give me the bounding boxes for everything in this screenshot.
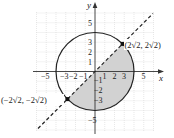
y-tick-label: 1 [88,58,92,67]
intersection-point-lower [65,97,69,101]
x-tick-label: 5 [142,72,146,81]
x-tick-label: −2 [69,72,78,81]
coordinate-diagram: x y −5 −3 −2 −1 1 2 3 5 5 3 2 1 −1 −2 −3… [0,0,174,138]
y-axis [93,2,98,134]
y-axis-label: y [86,0,91,10]
point-label-upper: (2√2, 2√2) [125,40,161,50]
y-tick-label: −5 [88,116,97,125]
y-tick-label: 5 [88,19,92,28]
y-tick-label: −1 [94,76,103,85]
x-tick-label: 1 [103,72,107,81]
x-tick-label: 3 [122,72,126,81]
y-tick-label: −3 [94,96,103,105]
y-tick-label: 2 [88,48,92,57]
x-axis-label: x [158,73,163,83]
x-tick-label: −5 [41,72,50,81]
x-tick-label: −1 [79,72,88,81]
y-tick-label: 3 [88,38,92,47]
x-tick-label: −3 [60,72,69,81]
dashed-line-y-equals-x [38,14,153,129]
y-tick-label: −2 [94,86,103,95]
point-label-lower: (−2√2, −2√2) [1,95,47,105]
x-tick-label: 2 [113,72,117,81]
